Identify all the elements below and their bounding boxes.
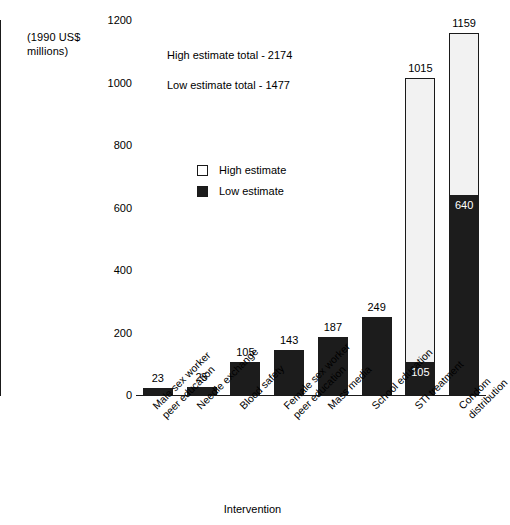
bar-value-label: 143	[280, 335, 298, 346]
y-axis-line	[0, 20, 1, 396]
x-axis-title: Intervention	[0, 504, 505, 515]
y-axis-tick-label: 1200	[92, 15, 132, 26]
bar-inner-value-label: 640	[455, 200, 473, 211]
bar-group[interactable]: 23	[143, 20, 173, 395]
bar-value-label: 1159	[452, 18, 476, 29]
y-axis-tick-label: 800	[92, 140, 132, 151]
bar-value-label: 187	[324, 322, 342, 333]
bar-group[interactable]: 143	[274, 20, 304, 395]
x-axis-category-labels: Male sex worker peer educationNeedle exc…	[0, 395, 505, 505]
bar-value-label: 1015	[408, 63, 432, 74]
bar-group[interactable]: 249	[362, 20, 392, 395]
y-axis-tick-label: 1000	[92, 77, 132, 88]
bar-group[interactable]: 105	[230, 20, 260, 395]
bar-group[interactable]: 25	[187, 20, 217, 395]
bars-layer: 232510514318724910151051159640	[136, 20, 486, 395]
bar-group[interactable]: 1159640	[449, 20, 479, 395]
bar-group[interactable]: 1015105	[405, 20, 435, 395]
bar-value-label: 23	[152, 373, 164, 384]
bar-high-estimate[interactable]	[405, 78, 435, 395]
bar-value-label: 249	[367, 302, 385, 313]
y-axis-tick-label: 400	[92, 265, 132, 276]
y-axis-tick-label: 600	[92, 202, 132, 213]
y-axis-tick-label: 200	[92, 327, 132, 338]
